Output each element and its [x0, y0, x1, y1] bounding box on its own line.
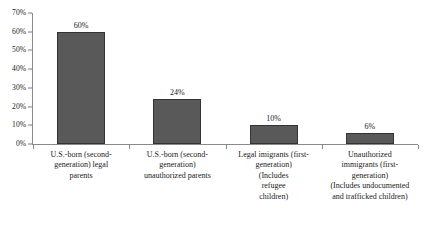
category-label-line: generation) [300, 171, 431, 181]
x-axis-tick-mark [33, 145, 34, 149]
bar-group: 60% [33, 13, 129, 144]
plot-area: 60%24%10%6% [33, 13, 418, 144]
bar [153, 99, 201, 144]
x-axis-tick-mark [226, 145, 227, 149]
bar-value-label: 60% [74, 21, 89, 30]
bar [250, 125, 298, 144]
x-axis-tick-mark [418, 145, 419, 149]
y-axis-tick-label: 50% [0, 46, 26, 54]
y-axis-tick-label: 40% [0, 65, 26, 73]
x-axis-tick-mark [322, 145, 323, 149]
bar-value-label: 10% [266, 114, 281, 123]
category-label-line: (Includes undocumented [300, 181, 431, 191]
y-axis-tick-label: 60% [0, 28, 26, 36]
y-axis: 70%60%50%40%30%20%10%0% [0, 0, 32, 146]
y-axis-tick-label: 0% [0, 140, 26, 148]
x-axis-category-label: Unauthorizedimmigrants (first-generation… [300, 150, 431, 202]
bar [57, 32, 105, 144]
bar-group: 10% [226, 13, 322, 144]
bar [346, 133, 394, 144]
bar-value-label: 6% [365, 122, 376, 131]
category-label-line: and trafficked children) [300, 192, 431, 202]
y-axis-tick-label: 70% [0, 9, 26, 17]
x-axis-tick-mark [129, 145, 130, 149]
bar-group: 6% [322, 13, 418, 144]
bar-group: 24% [129, 13, 225, 144]
category-label-line: immigrants (first- [300, 160, 431, 170]
y-axis-tick-label: 20% [0, 103, 26, 111]
x-axis-category-labels: U.S.-born (second-generation) legalparen… [33, 150, 418, 228]
bar-chart: 70%60%50%40%30%20%10%0% 60%24%10%6% U.S.… [0, 0, 431, 228]
category-label-line: Unauthorized [300, 150, 431, 160]
y-axis-tick-label: 30% [0, 84, 26, 92]
y-axis-tick-label: 10% [0, 121, 26, 129]
bar-value-label: 24% [170, 88, 185, 97]
